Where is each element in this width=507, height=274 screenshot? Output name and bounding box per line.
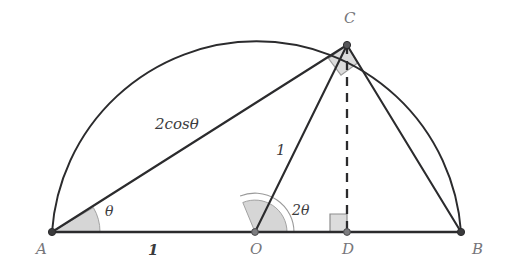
vertex-dot-b [457, 228, 464, 235]
vertex-dot-o [252, 229, 259, 236]
vertex-label-d: D [342, 242, 354, 257]
vertex-label-c: C [344, 11, 355, 26]
vertex-dot-a [48, 228, 55, 235]
geometry-figure: A O D B C 2cosθ 1 1 θ 2θ [0, 0, 507, 274]
segment-label-oc: 1 [276, 143, 286, 158]
vertex-dot-d [344, 229, 351, 236]
geometry-canvas [0, 0, 507, 274]
segment-label-ac: 2cosθ [155, 117, 199, 132]
angle-label-a: θ [105, 204, 113, 218]
vertex-dot-c [343, 41, 350, 48]
angle-label-o: 2θ [292, 203, 309, 217]
vertex-label-b: B [472, 242, 483, 257]
angle-wedge-o-inner [243, 200, 287, 232]
vertex-label-o: O [250, 242, 262, 257]
segment-label-ao: 1 [148, 243, 158, 258]
vertex-label-a: A [36, 242, 47, 257]
segment-cb [347, 45, 461, 232]
